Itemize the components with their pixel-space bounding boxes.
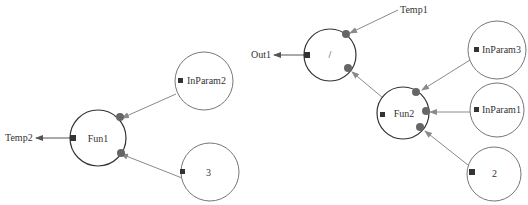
node-divide[interactable]: /	[304, 29, 356, 81]
node-fun2[interactable]: Fun2	[377, 87, 430, 139]
node-label: Fun2	[394, 108, 415, 119]
input-port-icon[interactable]	[344, 64, 352, 72]
output-port-icon[interactable]	[180, 169, 185, 174]
node-const-3[interactable]: 3	[180, 143, 239, 201]
edge-fun2-to-div	[352, 72, 383, 98]
node-label: 2	[492, 168, 497, 179]
output-port-icon[interactable]	[380, 112, 385, 117]
diagram-canvas: Fun1 InParam2 3 / Fun2 InParam3	[0, 0, 528, 205]
output-port-icon[interactable]	[70, 135, 76, 141]
edge-temp1-to-div	[350, 10, 398, 33]
input-port-icon[interactable]	[412, 88, 420, 96]
node-label: Fun1	[88, 133, 109, 144]
node-const-2[interactable]: 2	[467, 147, 521, 201]
node-label: /	[329, 49, 332, 60]
node-label: 3	[206, 167, 211, 178]
input-port-icon[interactable]	[117, 149, 125, 157]
input-label-temp1: Temp1	[400, 4, 428, 15]
node-inparam2[interactable]: InParam2	[175, 52, 233, 110]
input-port-icon[interactable]	[422, 107, 430, 115]
output-label-out1: Out1	[251, 49, 271, 60]
node-inparam3[interactable]: InParam3	[468, 21, 526, 79]
node-fun1[interactable]: Fun1	[70, 110, 126, 166]
input-port-icon[interactable]	[416, 123, 424, 131]
output-port-icon[interactable]	[474, 47, 479, 52]
node-label: InParam1	[482, 104, 521, 115]
output-port-icon[interactable]	[469, 169, 475, 175]
edge-2-to-fun2	[425, 131, 468, 165]
input-port-icon[interactable]	[116, 113, 124, 121]
edge-inparam2-to-fun1	[122, 94, 176, 118]
edge-inparam3-to-fun2	[422, 60, 470, 90]
output-port-icon[interactable]	[474, 107, 479, 112]
edge-3-to-fun1	[121, 154, 182, 178]
output-port-icon[interactable]	[304, 52, 310, 58]
node-label: InParam3	[482, 44, 521, 55]
node-label: InParam2	[187, 75, 226, 86]
node-inparam1[interactable]: InParam1	[470, 83, 524, 137]
output-label-temp2: Temp2	[5, 132, 33, 143]
output-port-icon[interactable]	[178, 78, 183, 83]
input-port-icon[interactable]	[342, 30, 350, 38]
